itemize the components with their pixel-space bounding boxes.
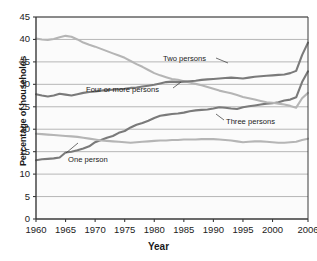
series-annotation: Two persons [163, 54, 206, 63]
series-annotation: One person [68, 155, 108, 164]
series-annotation: Three persons [226, 117, 275, 126]
plot-area [0, 0, 317, 261]
chart-container: Percentage of households Year 0510152025… [0, 0, 317, 261]
series-annotation: Four or more persons [86, 85, 159, 94]
